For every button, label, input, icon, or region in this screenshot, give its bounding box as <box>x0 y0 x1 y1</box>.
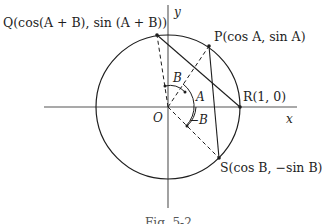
label-s: S(cos B, −sin B) <box>220 162 322 175</box>
label-y-axis: y <box>174 6 181 18</box>
point-q <box>155 33 159 37</box>
label-x-axis: x <box>286 113 293 125</box>
label-p: P(cos A, sin A) <box>214 31 306 44</box>
arrowhead-b <box>164 85 167 88</box>
figure-caption: Fig. 5-2 <box>145 217 192 224</box>
chord-ps <box>209 46 219 158</box>
point-r <box>238 105 242 109</box>
label-angle-b: B <box>173 72 182 84</box>
label-angle-negb: −B <box>189 114 208 126</box>
arrowhead-a <box>184 91 187 94</box>
label-angle-a: A <box>196 91 205 103</box>
label-r: R(1, 0) <box>243 91 286 104</box>
unit-circle-figure: Q(cos(A + B), sin (A + B)) P(cos A, sin … <box>0 0 326 224</box>
label-q: Q(cos(A + B), sin (A + B)) <box>3 17 167 30</box>
label-origin: O <box>153 112 163 124</box>
point-p <box>207 44 211 48</box>
radius-oq <box>157 35 168 107</box>
